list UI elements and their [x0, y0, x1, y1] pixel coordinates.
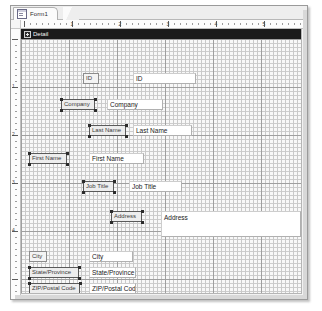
ruler-minor-tick — [60, 23, 61, 25]
ruler-minor-tick — [84, 23, 85, 25]
selection-handle[interactable] — [88, 135, 91, 138]
selection-handle[interactable] — [66, 163, 69, 166]
textbox-id[interactable]: ID — [133, 73, 196, 84]
textbox-state-province[interactable]: State/Province — [89, 267, 136, 278]
selection-handle[interactable] — [28, 277, 31, 280]
ruler-minor-tick — [156, 23, 157, 25]
selection-handle[interactable] — [60, 109, 63, 112]
ruler-minor-tick — [15, 291, 17, 292]
selection-handle[interactable] — [60, 98, 63, 101]
ruler-minor-tick — [240, 23, 241, 25]
selection-handle[interactable] — [110, 210, 113, 213]
textbox-address[interactable]: Address — [161, 211, 301, 237]
ruler-minor-tick — [30, 23, 31, 25]
selection-handle[interactable] — [125, 135, 128, 138]
selection-handle[interactable] — [66, 152, 69, 155]
label-state-province[interactable]: State/Province — [29, 267, 79, 278]
ruler-minor-tick — [42, 23, 43, 25]
label-last-name[interactable]: Last Name — [89, 125, 126, 136]
ruler-minor-tick — [288, 23, 289, 25]
selection-handle[interactable] — [28, 282, 31, 285]
ruler-minor-tick — [186, 23, 187, 25]
ruler-minor-tick — [15, 201, 17, 202]
ruler-minor-tick — [234, 23, 235, 25]
ruler-minor-tick — [54, 23, 55, 25]
selection-handle[interactable] — [28, 293, 31, 294]
ruler-number: 5 — [263, 20, 266, 28]
ruler-corner-box[interactable] — [11, 20, 21, 29]
selection-handle[interactable] — [82, 191, 85, 194]
selection-handle[interactable] — [113, 191, 116, 194]
ruler-minor-tick — [15, 51, 17, 52]
ruler-minor-tick — [114, 23, 115, 25]
selection-handle[interactable] — [94, 109, 97, 112]
ruler-major-tick — [12, 279, 18, 280]
ruler-minor-tick — [15, 261, 17, 262]
selection-handle[interactable] — [94, 98, 97, 101]
ruler-minor-tick — [270, 23, 271, 25]
label-id[interactable]: ID — [83, 73, 99, 84]
ruler-minor-tick — [48, 23, 49, 25]
ruler-minor-tick — [15, 99, 17, 100]
textbox-last-name[interactable]: Last Name — [133, 125, 192, 136]
selection-handle[interactable] — [141, 210, 144, 213]
ruler-minor-tick — [144, 23, 145, 25]
ruler-minor-tick — [15, 243, 17, 244]
textbox-city[interactable]: City — [89, 251, 133, 262]
label-zip-postal-code[interactable]: ZIP/Postal Code — [29, 283, 80, 294]
document-tab-label: Form1 — [30, 10, 48, 19]
vertical-ruler[interactable]: 1234 — [11, 29, 21, 299]
ruler-minor-tick — [252, 23, 253, 25]
window-shadow-bottom — [15, 295, 307, 299]
label-address[interactable]: Address — [111, 211, 142, 222]
ruler-minor-tick — [15, 255, 17, 256]
ruler-minor-tick — [15, 69, 17, 70]
selection-handle[interactable] — [79, 293, 82, 294]
form-design-surface[interactable]: Detail IDIDCompanyCompanyLast NameLast N… — [21, 29, 302, 294]
textbox-first-name[interactable]: First Name — [89, 153, 144, 164]
ruler-number: 3 — [12, 180, 15, 185]
selection-handle[interactable] — [110, 221, 113, 224]
selection-handle[interactable] — [78, 277, 81, 280]
ruler-minor-tick — [15, 213, 17, 214]
ruler-minor-tick — [15, 195, 17, 196]
label-job-title[interactable]: Job Title — [83, 181, 114, 192]
selection-handle[interactable] — [82, 180, 85, 183]
selection-handle[interactable] — [28, 163, 31, 166]
ruler-minor-tick — [174, 23, 175, 25]
selection-handle[interactable] — [113, 180, 116, 183]
selection-handle[interactable] — [141, 221, 144, 224]
selection-handle[interactable] — [125, 124, 128, 127]
ruler-minor-tick — [15, 267, 17, 268]
detail-section-bar[interactable]: Detail — [21, 29, 301, 39]
selection-handle[interactable] — [28, 152, 31, 155]
ruler-minor-tick — [15, 141, 17, 142]
ruler-minor-tick — [15, 147, 17, 148]
form-design-window: Form1 12345 1234 Detail IDIDCompanyCompa… — [10, 5, 308, 300]
ruler-minor-tick — [36, 23, 37, 25]
ruler-minor-tick — [282, 23, 283, 25]
ruler-number: 4 — [12, 228, 15, 233]
ruler-minor-tick — [162, 23, 163, 25]
textbox-zip-postal-code[interactable]: ZIP/Postal Code — [89, 283, 136, 294]
ruler-number: 4 — [215, 20, 218, 28]
ruler-minor-tick — [258, 23, 259, 25]
textbox-company[interactable]: Company — [107, 99, 163, 110]
label-city[interactable]: City — [29, 251, 47, 262]
selection-handle[interactable] — [88, 124, 91, 127]
selection-handle[interactable] — [79, 282, 82, 285]
textbox-job-title[interactable]: Job Title — [129, 181, 182, 192]
horizontal-ruler[interactable]: 12345 — [21, 20, 307, 29]
document-tab-form1[interactable]: Form1 — [13, 7, 58, 20]
access-form-designer: Form1 12345 1234 Detail IDIDCompanyCompa… — [0, 0, 322, 311]
ruler-minor-tick — [108, 23, 109, 25]
ruler-minor-tick — [15, 207, 17, 208]
selection-handle[interactable] — [28, 266, 31, 269]
ruler-minor-tick — [15, 105, 17, 106]
ruler-minor-tick — [102, 23, 103, 25]
label-first-name[interactable]: First Name — [29, 153, 67, 164]
label-company[interactable]: Company — [61, 99, 95, 110]
window-shadow-right — [303, 10, 307, 299]
expand-plus-icon[interactable] — [24, 31, 31, 38]
selection-handle[interactable] — [78, 266, 81, 269]
